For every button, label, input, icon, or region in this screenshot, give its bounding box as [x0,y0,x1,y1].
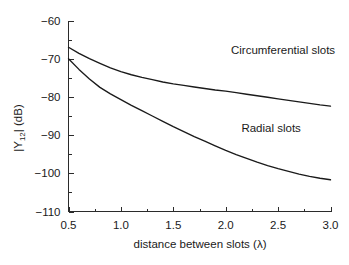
chart-figure: −110−100−90−80−70−60 0.51.01.52.02.53.0 … [0,0,349,265]
series-annotation: Radial slots [241,122,301,134]
plot-svg: −110−100−90−80−70−60 0.51.01.52.02.53.0 … [0,0,349,265]
svg-text:|Y12| (dB): |Y12| (dB) [12,104,27,152]
data-series [69,47,331,180]
x-tick-label: 3.0 [323,219,339,231]
y-axis-title-post: | (dB) [12,104,24,132]
x-axis-tick-labels: 0.51.01.52.02.53.0 [61,219,339,231]
x-tick-label: 1.5 [165,219,181,231]
y-axis-tick-labels: −110−100−90−80−70−60 [35,15,61,218]
y-axis-title-pre: |Y [12,141,24,152]
y-tick-label: −90 [41,129,61,141]
series-annotation: Circumferential slots [231,44,335,56]
x-axis-ticks [70,207,332,212]
series-annotations: Circumferential slotsRadial slots [231,44,335,134]
series-line [69,59,331,180]
x-tick-label: 2.0 [218,219,234,231]
x-tick-label: 2.5 [270,219,286,231]
y-tick-label: −70 [41,53,61,65]
y-tick-label: −110 [35,206,60,218]
x-tick-label: 0.5 [61,219,77,231]
x-axis-title: distance between slots (λ) [134,238,267,250]
y-axis-title: |Y12| (dB) [12,104,27,152]
y-tick-label: −60 [41,15,61,27]
x-tick-label: 1.0 [113,219,129,231]
series-line [69,47,331,106]
y-tick-label: −80 [41,91,61,103]
y-tick-label: −100 [35,167,61,179]
